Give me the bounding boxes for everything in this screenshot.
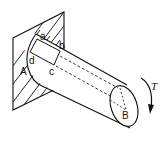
label-T-torque: T: [151, 80, 158, 92]
label-c: c: [49, 66, 54, 77]
label-d: d: [29, 55, 35, 66]
label-A: A: [20, 66, 27, 77]
torsion-shaft-diagram: a b c d A B T: [0, 0, 168, 145]
label-a: a: [40, 31, 46, 42]
label-b: b: [59, 40, 65, 51]
label-B: B: [122, 110, 129, 121]
